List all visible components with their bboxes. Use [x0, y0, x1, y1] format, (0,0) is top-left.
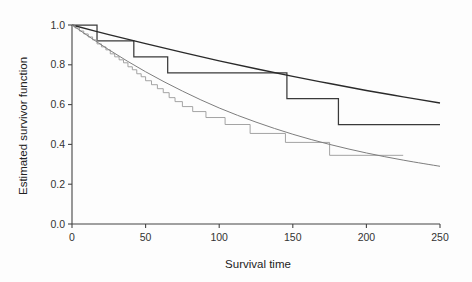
y-tick-label: 0.0: [50, 218, 65, 230]
chart-page: 0.00.20.40.60.81.0050100150200250 Estima…: [0, 0, 472, 282]
x-axis-title: Survival time: [225, 258, 291, 270]
y-tick-label: 0.8: [50, 58, 65, 70]
axis-labels: Estimated survivor function Survival tim…: [17, 57, 291, 270]
series-group-2-kaplan-meier-step: [72, 25, 403, 155]
series-group-1-fitted-smooth: [72, 25, 440, 103]
x-tick-label: 0: [69, 231, 75, 243]
series-group-1-kaplan-meier-step: [72, 25, 440, 125]
y-axis-title: Estimated survivor function: [17, 57, 29, 195]
y-tick-label: 0.6: [50, 98, 65, 110]
x-tick-label: 250: [431, 231, 449, 243]
x-tick-label: 50: [140, 231, 152, 243]
y-tick-label: 1.0: [50, 19, 65, 31]
series-group-2-fitted-smooth: [72, 25, 440, 166]
x-tick-label: 150: [284, 231, 302, 243]
curves: [72, 25, 440, 166]
survival-plot: 0.00.20.40.60.81.0050100150200250 Estima…: [0, 0, 472, 282]
x-tick-label: 100: [210, 231, 228, 243]
x-tick-label: 200: [358, 231, 376, 243]
y-tick-label: 0.4: [50, 138, 65, 150]
y-tick-label: 0.2: [50, 178, 65, 190]
